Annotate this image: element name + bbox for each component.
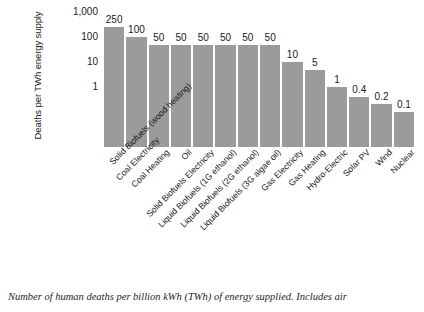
bar[interactable] [282, 62, 302, 147]
bar-slot: 0.1 [393, 12, 415, 147]
bar-value-label: 5 [312, 58, 318, 68]
y-tick-label: 1,000 [73, 7, 98, 17]
bar[interactable] [238, 45, 258, 147]
bar-slot: 50 [214, 12, 236, 147]
bar[interactable] [371, 104, 391, 147]
bar-value-label: 50 [175, 33, 186, 43]
bar-value-label: 0.2 [375, 92, 389, 102]
bar-value-label: 10 [287, 50, 298, 60]
y-axis-title: Deaths per TWh energy supply [32, 0, 43, 161]
bar[interactable] [193, 45, 213, 147]
chart-figure: Deaths per TWh energy supply 1,000100101… [0, 0, 424, 312]
y-tick-label: 1 [92, 82, 98, 92]
bar-slot: 5 [304, 12, 326, 147]
bar-value-label: 50 [242, 33, 253, 43]
bar-slot: 50 [192, 12, 214, 147]
bar[interactable] [104, 27, 124, 147]
bar[interactable] [349, 97, 369, 147]
bar-value-label: 1 [334, 75, 340, 85]
bar-value-label: 50 [220, 33, 231, 43]
bar-value-label: 50 [265, 33, 276, 43]
bar[interactable] [394, 112, 414, 147]
bar-slot: 0.2 [370, 12, 392, 147]
bar-slot: 250 [103, 12, 125, 147]
y-axis-tick-labels: 1,000100101 [52, 0, 98, 150]
bar-slot: 0.4 [348, 12, 370, 147]
bar-value-label: 50 [198, 33, 209, 43]
bar-value-label: 250 [106, 15, 123, 25]
bar-slot: 50 [170, 12, 192, 147]
bar[interactable] [149, 45, 169, 147]
figure-caption: Number of human deaths per billion kWh (… [8, 290, 418, 303]
x-axis-tick-labels: Solid Biofuels (wood heating)Coal Electr… [103, 148, 415, 268]
y-tick-label: 100 [81, 32, 98, 42]
bar-value-label: 50 [153, 33, 164, 43]
bar-slot: 1 [326, 12, 348, 147]
x-tick-label-text: Nuclear [389, 148, 416, 175]
y-tick-label: 10 [87, 57, 98, 67]
bar-value-label: 0.4 [352, 85, 366, 95]
bar[interactable] [215, 45, 235, 147]
bar[interactable] [260, 45, 280, 147]
bar-slot: 50 [237, 12, 259, 147]
bar-value-label: 0.1 [397, 100, 411, 110]
bar[interactable] [327, 87, 347, 147]
x-tick-label-text: Oil [180, 148, 194, 162]
bar-value-label: 100 [128, 25, 145, 35]
bar[interactable] [305, 70, 325, 147]
bar-slot: 50 [259, 12, 281, 147]
bar-slot: 10 [281, 12, 303, 147]
